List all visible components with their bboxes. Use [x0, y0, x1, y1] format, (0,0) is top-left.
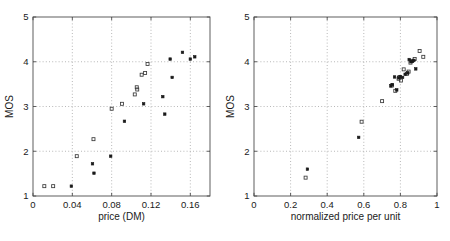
data-point-filled	[164, 113, 167, 116]
x-tick-label: 0.8	[394, 199, 407, 210]
data-point-open	[92, 138, 95, 141]
data-point-filled	[142, 103, 145, 106]
axis-box	[254, 17, 437, 196]
x-tick-label: 0.4	[321, 199, 334, 210]
data-point-open	[43, 185, 46, 188]
data-point-open	[422, 55, 425, 58]
x-tick-label: 0.08	[102, 199, 121, 210]
series-filled-dot	[306, 58, 417, 170]
data-point-open	[144, 71, 147, 74]
data-point-filled	[162, 95, 165, 98]
data-point-filled	[109, 155, 112, 158]
data-point-filled	[393, 76, 396, 79]
data-point-open	[52, 185, 55, 188]
data-point-open	[381, 100, 384, 103]
figure-canvas: 00.040.080.120.1612345price (DM)MOS 00.2…	[0, 0, 450, 241]
data-point-filled	[91, 163, 94, 166]
x-axis-label: price (DM)	[98, 211, 145, 222]
y-tick-label: 3	[23, 101, 28, 112]
data-point-open	[418, 50, 421, 53]
chart-panel-left: 00.040.080.120.1612345price (DM)MOS	[0, 0, 225, 241]
data-point-open	[146, 62, 149, 65]
data-point-filled	[181, 51, 184, 54]
series-filled-dot	[70, 51, 196, 187]
data-point-open	[110, 107, 113, 110]
data-point-filled	[70, 185, 73, 188]
data-point-filled	[306, 168, 309, 171]
y-tick-label: 2	[23, 146, 28, 157]
data-point-open	[75, 155, 78, 158]
data-point-open	[120, 102, 123, 105]
chart-panel-right: 00.20.40.60.8112345normalized price per …	[225, 0, 450, 241]
y-tick-label: 1	[244, 190, 249, 201]
y-tick-label: 3	[244, 101, 249, 112]
y-tick-label: 1	[23, 190, 28, 201]
data-point-filled	[171, 76, 174, 79]
scatter-plot-left: 00.040.080.120.1612345price (DM)MOS	[0, 0, 225, 241]
data-point-filled	[404, 73, 407, 76]
y-tick-label: 5	[23, 11, 28, 22]
x-tick-label: 0.16	[181, 199, 200, 210]
data-point-filled	[169, 58, 172, 61]
data-point-open	[304, 176, 307, 179]
data-point-filled	[123, 120, 126, 123]
data-point-filled	[395, 89, 398, 92]
y-tick-label: 5	[244, 11, 249, 22]
x-tick-label: 0.2	[284, 199, 297, 210]
data-point-filled	[357, 136, 360, 139]
series-open-square	[304, 50, 425, 180]
data-point-filled	[415, 68, 418, 71]
x-tick-label: 0.6	[357, 199, 370, 210]
x-tick-label: 0	[251, 199, 256, 210]
data-point-filled	[413, 59, 416, 62]
y-tick-label: 4	[23, 56, 28, 67]
x-tick-label: 0.04	[63, 199, 82, 210]
y-axis-label: MOS	[4, 95, 15, 118]
data-point-open	[402, 68, 405, 71]
x-axis-label: normalized price per unit	[291, 211, 401, 222]
y-tick-label: 2	[244, 146, 249, 157]
y-axis-label: MOS	[225, 95, 236, 118]
scatter-plot-right: 00.20.40.60.8112345normalized price per …	[225, 0, 450, 241]
x-tick-label: 1	[434, 199, 439, 210]
x-tick-label: 0	[30, 199, 35, 210]
data-point-filled	[401, 76, 404, 79]
data-point-filled	[194, 56, 197, 59]
data-point-filled	[391, 83, 394, 86]
series-open-square	[43, 62, 149, 187]
data-point-filled	[93, 172, 96, 175]
data-point-open	[360, 120, 363, 123]
data-point-filled	[189, 58, 192, 61]
data-point-open	[133, 93, 136, 96]
data-point-filled	[406, 72, 409, 75]
y-tick-label: 4	[244, 56, 249, 67]
x-tick-label: 0.12	[142, 199, 161, 210]
data-point-open	[140, 73, 143, 76]
